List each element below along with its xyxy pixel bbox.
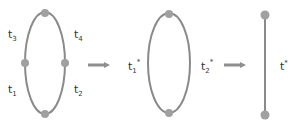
label-t2-star: t2* — [201, 58, 214, 75]
stage2-loop: t1* t2* — [128, 10, 214, 117]
label-t2: t2 — [74, 83, 83, 98]
reduction-diagram: t3 t4 t1 t2 t1* t2* t* — [0, 0, 291, 128]
node-right — [61, 59, 69, 67]
label-t1: t1 — [8, 83, 17, 98]
label-t1-star: t1* — [128, 58, 141, 75]
stage3-edge: t* — [261, 11, 289, 120]
label-t4: t4 — [74, 28, 83, 43]
arrow-2 — [224, 62, 246, 68]
arrow-1 — [88, 62, 110, 68]
label-t-star: t* — [280, 59, 288, 73]
node-bottom — [261, 111, 270, 120]
loop-edge — [25, 12, 65, 114]
node-left — [21, 59, 29, 67]
node-top — [41, 9, 49, 17]
node-bottom — [165, 109, 173, 117]
label-t3: t3 — [8, 28, 17, 43]
node-top — [261, 11, 270, 20]
node-bottom — [41, 110, 49, 118]
node-top — [165, 10, 173, 18]
stage1-loop: t3 t4 t1 t2 — [8, 9, 83, 118]
loop-edge — [148, 13, 190, 113]
